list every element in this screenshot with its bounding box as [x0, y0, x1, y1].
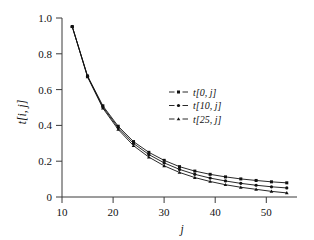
- square-marker: [178, 165, 181, 168]
- circle-marker: [209, 176, 212, 179]
- x-tick-label: 30: [159, 206, 171, 218]
- legend-label: t[25, j]: [193, 114, 221, 125]
- y-tick-label: 0: [47, 191, 53, 203]
- x-tick-label: 50: [261, 206, 273, 218]
- y-tick-label: 0.8: [38, 48, 52, 60]
- square-marker: [255, 179, 258, 182]
- square-marker: [193, 170, 196, 173]
- line-chart: 0 0.2 0.4 0.6 0.8 1.0 10 20 30 40 50 j t…: [0, 0, 314, 240]
- y-axis-label: t[i, j]: [16, 100, 29, 124]
- y-tick-label: 0.4: [38, 119, 52, 131]
- y-tick-label: 0.6: [38, 84, 52, 96]
- square-marker: [285, 181, 288, 184]
- square-marker: [177, 90, 180, 93]
- circle-marker: [224, 179, 227, 182]
- circle-marker: [178, 168, 181, 171]
- square-marker: [270, 180, 273, 183]
- x-tick-label: 40: [210, 206, 222, 218]
- circle-marker: [270, 185, 273, 188]
- legend-label: t[0, j]: [193, 87, 216, 98]
- circle-marker: [193, 173, 196, 176]
- x-tick-label: 10: [57, 206, 69, 218]
- legend-label: t[10, j]: [193, 100, 221, 111]
- square-marker: [224, 175, 227, 178]
- x-tick-label: 20: [108, 206, 120, 218]
- chart-figure: 0 0.2 0.4 0.6 0.8 1.0 10 20 30 40 50 j t…: [0, 0, 314, 240]
- circle-marker: [285, 186, 288, 189]
- square-marker: [239, 177, 242, 180]
- circle-marker: [255, 184, 258, 187]
- square-marker: [209, 173, 212, 176]
- y-tick-label: 0.2: [38, 155, 52, 167]
- circle-marker: [239, 182, 242, 185]
- y-tick-label: 1.0: [38, 12, 52, 24]
- circle-marker: [177, 104, 180, 107]
